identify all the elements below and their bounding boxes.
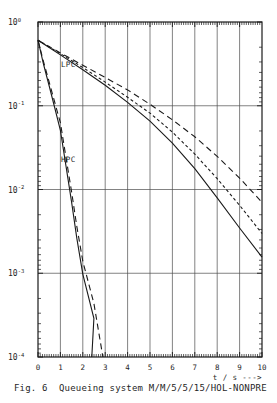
y-tick-labels: 100 10-1 10-2 10-3 10-4	[8, 17, 25, 362]
x-tick-label-7: 7	[193, 363, 198, 372]
queueing-system-chart: LPC HPC 100 10-1 10-2 10-3 10-4 0	[0, 0, 277, 403]
annotation-hpc-label: HPC	[61, 155, 75, 164]
x-axis-title: t / s --->	[213, 373, 262, 382]
annotation-hpc: HPC	[61, 155, 75, 164]
annotation-lpc: LPC	[61, 60, 75, 69]
x-tick-label-8: 8	[215, 363, 220, 372]
y-tick-label-2: 10-2	[8, 184, 24, 194]
figure-caption: Fig. 6 Queueing system M/M/5/5/15/HOL-NO…	[14, 383, 272, 393]
x-tick-label-1: 1	[58, 363, 63, 372]
x-tick-label-5: 5	[148, 363, 153, 372]
y-tick-label-4: 10-4	[8, 352, 25, 362]
x-tick-label-4: 4	[125, 363, 130, 372]
figure-container: LPC HPC 100 10-1 10-2 10-3 10-4 0	[0, 0, 277, 403]
x-tick-label-0: 0	[36, 363, 41, 372]
y-tick-label-3: 10-3	[8, 268, 24, 278]
x-tick-label-10: 10	[257, 363, 267, 372]
x-tick-labels: 0 1 2 3 4 5 6 7 8 9 10	[36, 363, 267, 372]
x-tick-label-2: 2	[81, 363, 86, 372]
y-tick-label-0: 100	[8, 17, 21, 27]
x-tick-label-9: 9	[237, 363, 242, 372]
annotation-lpc-label: LPC	[61, 60, 75, 69]
x-tick-label-3: 3	[103, 363, 108, 372]
x-tick-label-6: 6	[170, 363, 175, 372]
y-tick-label-1: 10-1	[8, 100, 24, 110]
